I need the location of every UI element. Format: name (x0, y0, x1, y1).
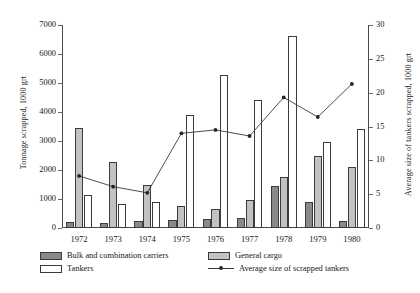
legend-line-marker-icon (208, 265, 234, 273)
y-tick-mark-right (369, 59, 373, 60)
legend-item-general-cargo: General cargo (208, 251, 282, 260)
y-tick-label-left: 4000 (22, 107, 56, 116)
legend-swatch-light-icon (40, 265, 62, 273)
line-data-point (316, 115, 320, 119)
y-tick-label-left: 2000 (22, 165, 56, 174)
line-data-point (214, 128, 218, 132)
line-data-point (77, 174, 81, 178)
y-tick-label-left: 3000 (22, 136, 56, 145)
legend-swatch-mid-icon (208, 252, 230, 260)
legend-item-tankers: Tankers (40, 264, 208, 273)
legend-item-bulk: Bulk and combination carriers (40, 251, 208, 260)
chart-figure: Tonnage scrapped, 1000 grt Average size … (0, 0, 420, 293)
y-tick-label-right: 10 (376, 155, 406, 164)
y-tick-label-right: 25 (376, 54, 406, 63)
y-tick-label-left: 0 (22, 223, 56, 232)
line-data-point (111, 185, 115, 189)
average-size-line-series (62, 25, 369, 228)
x-tick-label: 1980 (330, 234, 374, 244)
y-tick-mark-left (58, 228, 62, 229)
y-tick-label-left: 1000 (22, 194, 56, 203)
plot-area (62, 25, 369, 228)
y-tick-label-left: 7000 (22, 20, 56, 29)
y-tick-mark-right (369, 160, 373, 161)
line-data-point (180, 131, 184, 135)
y-tick-label-left: 6000 (22, 49, 56, 58)
chart-legend: Bulk and combination carriers General ca… (40, 249, 400, 275)
line-data-point (145, 191, 149, 195)
y-axis-left-title: Tonnage scrapped, 1000 grt (19, 48, 28, 198)
y-tick-label-right: 5 (376, 189, 406, 198)
y-tick-label-right: 0 (376, 223, 406, 232)
y-tick-label-right: 30 (376, 20, 406, 29)
legend-label-bulk: Bulk and combination carriers (67, 251, 169, 260)
y-tick-label-left: 5000 (22, 78, 56, 87)
line-data-point (282, 96, 286, 100)
legend-label-average-size: Average size of scrapped tankers (239, 264, 349, 273)
line-data-point (350, 82, 354, 86)
legend-swatch-dark-icon (40, 252, 62, 260)
y-tick-label-right: 20 (376, 88, 406, 97)
y-tick-mark-right (369, 228, 373, 229)
legend-label-tankers: Tankers (67, 264, 93, 273)
line-data-point (248, 134, 252, 138)
legend-item-average-size: Average size of scrapped tankers (208, 264, 349, 273)
y-tick-label-right: 15 (376, 122, 406, 131)
y-tick-mark-right (369, 93, 373, 94)
y-tick-mark-right (369, 194, 373, 195)
y-tick-mark-right (369, 127, 373, 128)
y-tick-mark-right (369, 25, 373, 26)
line-path (79, 84, 352, 193)
legend-label-general-cargo: General cargo (235, 251, 282, 260)
